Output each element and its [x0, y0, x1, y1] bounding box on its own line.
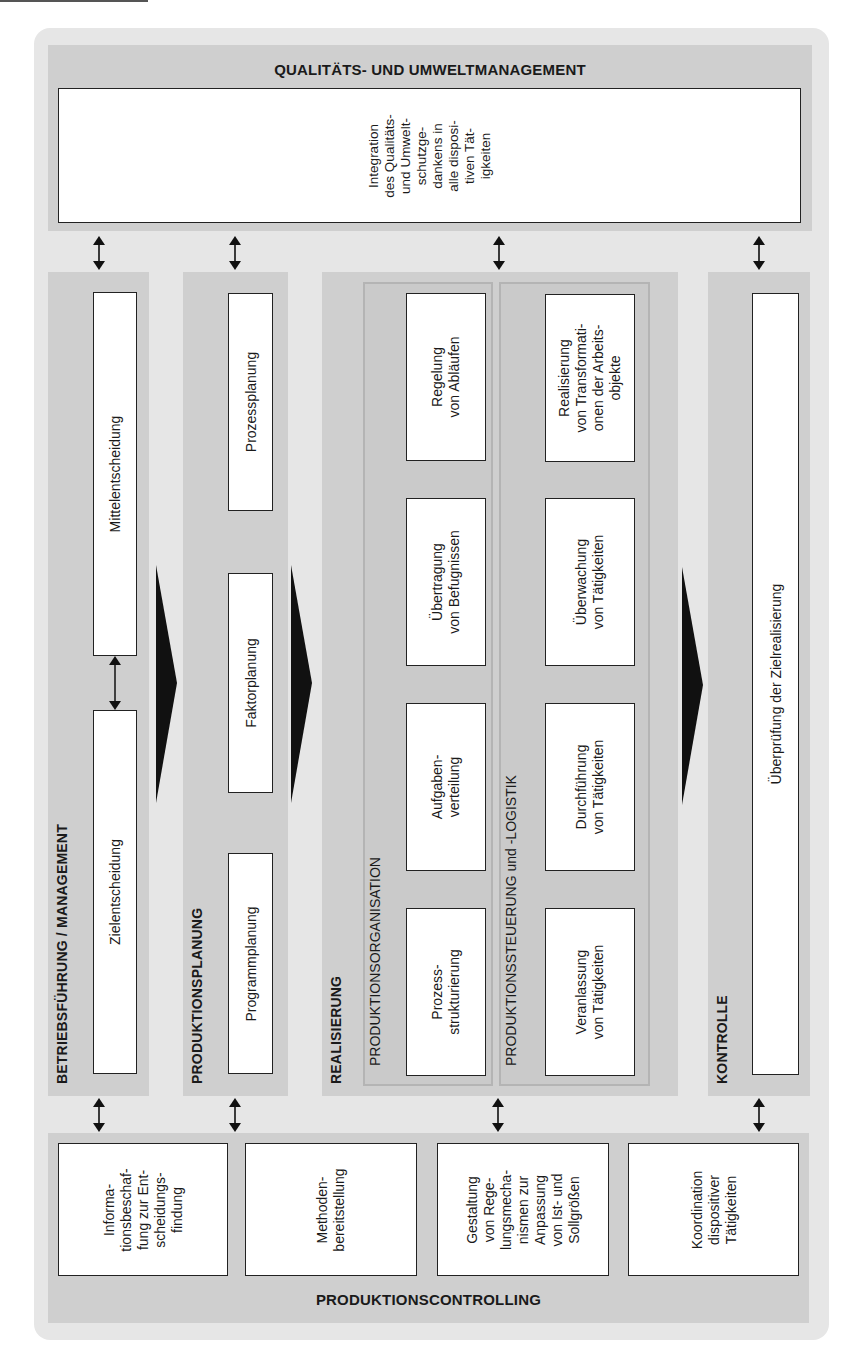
regelungsmechanismen-text: Gestaltung von Rege- lungsmecha- nismen …	[464, 1169, 583, 1249]
flow-arrow-icon	[156, 565, 180, 803]
quality-environment-band: QUALITÄTS- UND UMWELTMANAGEMENT Integrat…	[48, 45, 812, 231]
flow-arrow-icon	[291, 565, 315, 803]
double-arrow-icon	[228, 1098, 242, 1132]
faktorplanung-text: Faktorplanung	[242, 638, 259, 728]
double-arrow-icon	[752, 1098, 766, 1132]
production-control-title: PRODUKTIONSSTEUERUNG und -LOGISTIK	[503, 775, 519, 1066]
double-arrow-icon	[491, 1098, 505, 1132]
prozessstrukturierung-text: Prozess- strukturierung	[429, 949, 463, 1035]
flow-arrow-icon	[682, 567, 706, 805]
durchfuehrung-box: Durchführung von Tätigkeiten	[545, 703, 635, 871]
mittelentscheidung-box: Mittelentscheidung	[93, 292, 137, 656]
double-arrow-icon	[108, 656, 122, 710]
kontrolle-title: KONTROLLE	[714, 995, 730, 1084]
veranlassung-box: Veranlassung von Tätigkeiten	[545, 908, 635, 1076]
realization-title: REALISIERUNG	[328, 976, 344, 1084]
double-arrow-icon	[492, 236, 506, 270]
programmplanung-box: Programmplanung	[228, 853, 273, 1074]
programmplanung-text: Programmplanung	[242, 906, 259, 1021]
koordination-text: Koordination dispositiver Tätigkeiten	[688, 1170, 739, 1249]
ueberwachung-text: Überwachung von Tätigkeiten	[573, 535, 607, 630]
koordination-box: Koordination dispositiver Tätigkeiten	[628, 1143, 799, 1276]
methodenbereitstellung-text: Methoden- bereitstellung	[314, 1168, 348, 1251]
methodenbereitstellung-box: Methoden- bereitstellung	[245, 1143, 417, 1276]
informationsbeschaffung-text: Informa- tionsbeschaf- fung zur Ent- sch…	[101, 1168, 186, 1251]
informationsbeschaffung-box: Informa- tionsbeschaf- fung zur Ent- sch…	[58, 1143, 228, 1276]
quality-integration-text: Integration des Qualitäts- und Umwelt- s…	[366, 114, 494, 197]
regelung-text: Regelung von Abläufen	[429, 337, 463, 418]
aufgabenverteilung-text: Aufgaben- verteilung	[429, 755, 463, 820]
prozessstrukturierung-box: Prozess- strukturierung	[406, 908, 486, 1076]
transformation-text: Realisierung von Transformati- onen der …	[556, 324, 624, 433]
double-arrow-icon	[92, 1098, 106, 1132]
controlling-band: Informa- tionsbeschaf- fung zur Ent- sch…	[48, 1133, 809, 1323]
regelung-box: Regelung von Abläufen	[406, 293, 486, 461]
production-organisation-title: PRODUKTIONSORGANISATION	[367, 857, 383, 1066]
top-rule	[0, 0, 148, 2]
controlling-title: PRODUKTIONSCONTROLLING	[48, 1291, 809, 1308]
aufgabenverteilung-box: Aufgaben- verteilung	[406, 703, 486, 871]
quality-environment-title: QUALITÄTS- UND UMWELTMANAGEMENT	[48, 61, 812, 78]
double-arrow-icon	[228, 236, 242, 270]
quality-integration-box: Integration des Qualitäts- und Umwelt- s…	[58, 88, 801, 223]
management-title: BETRIEBSFÜHRUNG / MANAGEMENT	[54, 824, 70, 1084]
veranlassung-text: Veranlassung von Tätigkeiten	[573, 945, 607, 1040]
uebertragung-text: Übertragung von Befugnissen	[429, 530, 463, 634]
double-arrow-icon	[752, 236, 766, 270]
planning-title: PRODUKTIONSPLANUNG	[189, 908, 205, 1084]
kontrolle-column: KONTROLLE Überprüfung der Zielrealisieru…	[708, 272, 810, 1096]
zielrealisierung-text: Überprüfung der Zielrealisierung	[767, 584, 784, 785]
faktorplanung-box: Faktorplanung	[228, 573, 273, 793]
prozessplanung-text: Prozessplanung	[242, 352, 259, 452]
mittelentscheidung-text: Mittelentscheidung	[107, 416, 124, 533]
transformation-box: Realisierung von Transformati- onen der …	[545, 294, 635, 462]
ueberwachung-box: Überwachung von Tätigkeiten	[545, 498, 635, 666]
double-arrow-icon	[92, 236, 106, 270]
planning-column: PRODUKTIONSPLANUNG Prozessplanung Faktor…	[183, 272, 288, 1096]
uebertragung-box: Übertragung von Befugnissen	[406, 498, 486, 666]
durchfuehrung-text: Durchführung von Tätigkeiten	[573, 740, 607, 835]
management-column: BETRIEBSFÜHRUNG / MANAGEMENT Mittelentsc…	[48, 272, 149, 1096]
zielentscheidung-box: Zielentscheidung	[93, 710, 137, 1074]
prozessplanung-box: Prozessplanung	[228, 293, 273, 511]
zielrealisierung-box: Überprüfung der Zielrealisierung	[752, 293, 799, 1075]
zielentscheidung-text: Zielentscheidung	[107, 839, 124, 945]
regelungsmechanismen-box: Gestaltung von Rege- lungsmecha- nismen …	[437, 1143, 609, 1276]
